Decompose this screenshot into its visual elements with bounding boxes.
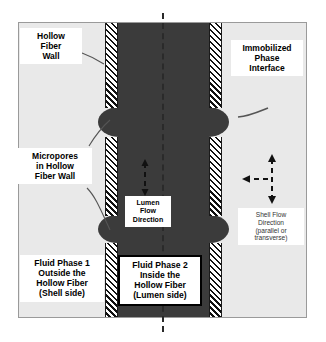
label-line: (Lumen side): [124, 290, 196, 300]
label-fluid-phase-2: Fluid Phase 2 Inside the Hollow Fiber (L…: [118, 255, 202, 306]
label-line: Shell Flow: [242, 211, 300, 219]
label-line: transverse): [242, 234, 300, 242]
label-line: Lumen: [129, 199, 167, 207]
label-line: Inside the: [124, 270, 196, 280]
label-line: Direction: [129, 216, 167, 224]
fiber-wall-segment-left-top: [105, 22, 118, 108]
label-line: Hollow Fiber: [124, 280, 196, 290]
label-line: (Shell side): [24, 288, 100, 298]
fiber-wall-segment-right-bottom: [209, 243, 222, 318]
label-line: Fiber: [24, 41, 78, 51]
label-shell-flow-direction: Shell Flow Direction (parallel or transv…: [238, 208, 304, 245]
label-line: Fluid Phase 2: [124, 260, 196, 270]
label-line: Flow: [129, 207, 167, 215]
label-line: Hollow Fiber: [24, 278, 100, 288]
diagram-canvas: Hollow Fiber Wall Immobilized Phase Inte…: [0, 0, 326, 342]
label-line: Immobilized: [235, 43, 299, 53]
label-line: Wall: [24, 51, 78, 61]
label-line: Fiber Wall: [22, 171, 88, 181]
label-line: Interface: [235, 63, 299, 73]
label-micropores-in-hollow-fiber-wall: Micropores in Hollow Fiber Wall: [18, 148, 92, 184]
label-line: Phase: [235, 53, 299, 63]
fiber-wall-segment-left-bottom: [105, 243, 118, 318]
label-line: Micropores: [22, 151, 88, 161]
label-lumen-flow-direction: Lumen Flow Direction: [125, 196, 171, 227]
label-line: (parallel or: [242, 227, 300, 235]
label-line: Direction: [242, 219, 300, 227]
fiber-wall-segment-right-top: [209, 22, 222, 108]
label-line: Hollow: [24, 31, 78, 41]
label-line: Fluid Phase 1: [24, 258, 100, 268]
fiber-wall-segment-right-middle: [209, 137, 222, 216]
label-immobilized-phase-interface: Immobilized Phase Interface: [231, 40, 303, 76]
label-line: Outside the: [24, 268, 100, 278]
label-hollow-fiber-wall: Hollow Fiber Wall: [20, 28, 82, 64]
label-fluid-phase-1: Fluid Phase 1 Outside the Hollow Fiber (…: [20, 255, 104, 302]
fiber-wall-segment-left-middle: [105, 137, 118, 216]
label-line: in Hollow: [22, 161, 88, 171]
